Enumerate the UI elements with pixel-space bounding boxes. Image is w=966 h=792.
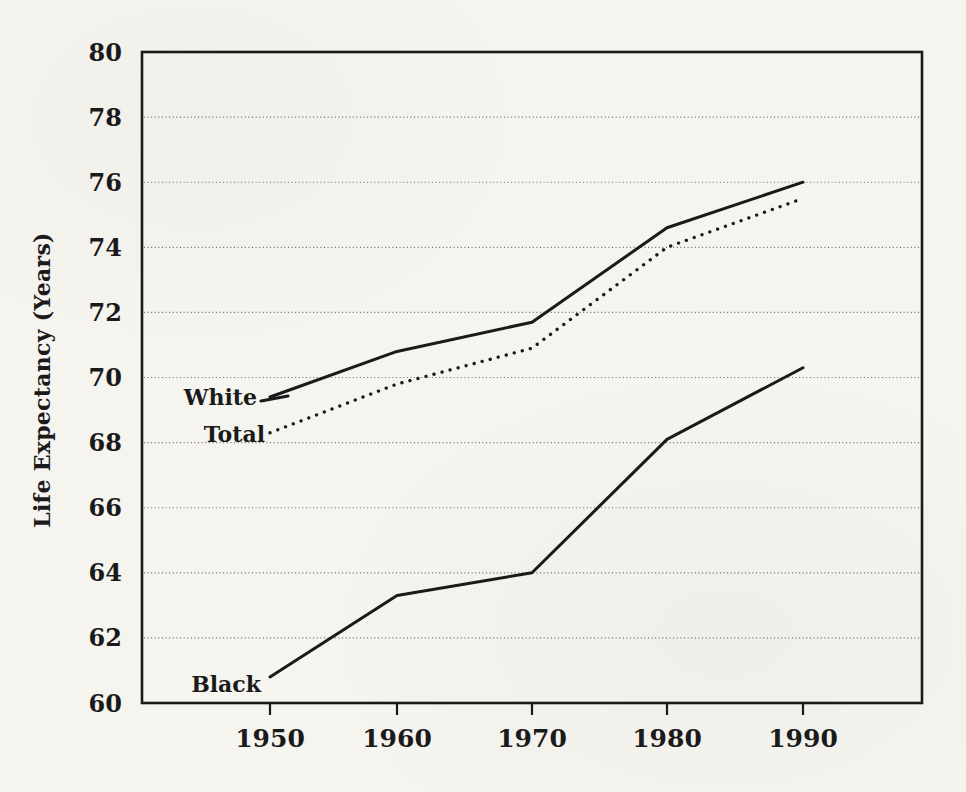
series-label-black: Black (191, 671, 262, 697)
y-tick-label-70: 70 (89, 363, 122, 392)
life-expectancy-line-chart: 1950196019701980199080787674727068666462… (0, 0, 966, 792)
plot-frame (142, 52, 922, 703)
x-tick-label-1960: 1960 (362, 724, 432, 753)
y-tick-label-72: 72 (89, 298, 122, 327)
y-tick-label-66: 66 (89, 493, 122, 522)
x-tick-label-1990: 1990 (768, 724, 838, 753)
y-tick-label-74: 74 (89, 233, 122, 262)
y-tick-label-76: 76 (89, 168, 122, 197)
y-tick-label-78: 78 (89, 103, 122, 132)
x-tick-label-1970: 1970 (497, 724, 567, 753)
x-tick-label-1950: 1950 (235, 724, 305, 753)
y-tick-label-64: 64 (89, 558, 122, 587)
series-line-total (270, 198, 803, 432)
series-line-black (270, 368, 803, 677)
y-tick-label-60: 60 (89, 689, 122, 718)
series-line-white (270, 182, 803, 397)
series-label-white: White (183, 384, 257, 410)
x-tick-label-1980: 1980 (632, 724, 702, 753)
y-tick-label-62: 62 (89, 623, 122, 652)
y-tick-label-68: 68 (89, 428, 122, 457)
series-label-total: Total (204, 421, 265, 447)
scanned-chart-page: Life Expectancy (Years) 1950196019701980… (0, 0, 966, 792)
y-tick-label-80: 80 (89, 38, 122, 67)
